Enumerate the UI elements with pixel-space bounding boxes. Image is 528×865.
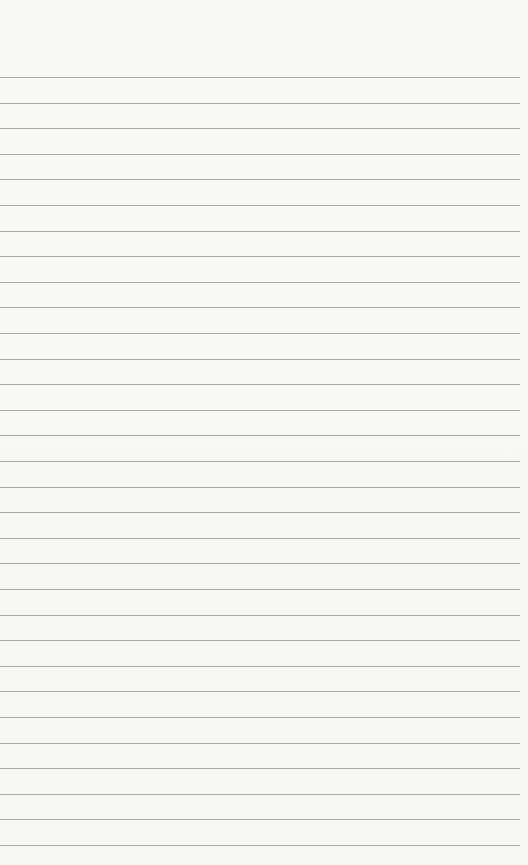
ruled-line	[0, 179, 520, 180]
ruled-line	[0, 256, 520, 257]
ruled-line	[0, 512, 520, 513]
ruled-line	[0, 819, 520, 820]
ruled-line	[0, 691, 520, 692]
ruled-line	[0, 205, 520, 206]
ruled-line	[0, 640, 520, 641]
ruled-line	[0, 743, 520, 744]
ruled-line	[0, 666, 520, 667]
ruled-line	[0, 487, 520, 488]
ruled-line	[0, 282, 520, 283]
ruled-line	[0, 794, 520, 795]
ruled-line	[0, 589, 520, 590]
ruled-line	[0, 384, 520, 385]
ruled-line	[0, 154, 520, 155]
ruled-line	[0, 333, 520, 334]
notepad-paper	[0, 0, 528, 865]
ruled-line	[0, 231, 520, 232]
ruled-line	[0, 563, 520, 564]
ruled-line	[0, 77, 520, 78]
ruled-line	[0, 128, 520, 129]
ruled-line	[0, 717, 520, 718]
ruled-line	[0, 538, 520, 539]
ruled-line	[0, 103, 520, 104]
ruled-line	[0, 845, 520, 846]
ruled-line	[0, 768, 520, 769]
ruled-line	[0, 410, 520, 411]
ruled-line	[0, 435, 520, 436]
ruled-line	[0, 307, 520, 308]
ruled-line	[0, 615, 520, 616]
ruled-line	[0, 359, 520, 360]
ruled-line	[0, 461, 520, 462]
